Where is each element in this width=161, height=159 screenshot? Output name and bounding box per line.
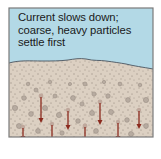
caption-line: Current slows down;: [18, 11, 148, 24]
caption: Current slows down; coarse, heavy partic…: [18, 11, 148, 49]
sediment-region: [9, 59, 153, 140]
caption-line: settle first: [18, 36, 148, 49]
caption-line: coarse, heavy particles: [18, 24, 148, 37]
